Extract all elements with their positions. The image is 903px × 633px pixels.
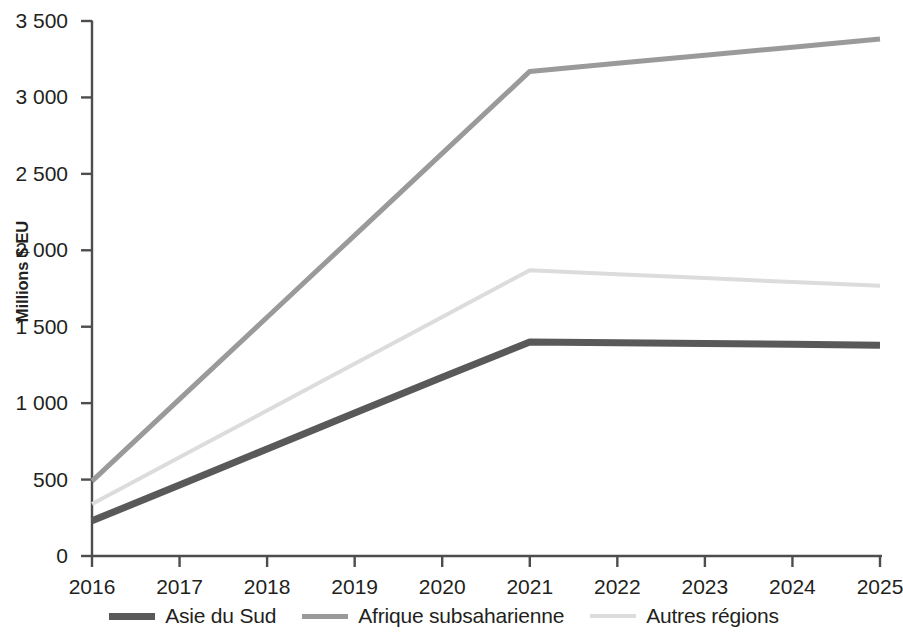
chart-legend: Asie du SudAfrique subsaharienneAutres r… <box>0 604 888 628</box>
legend-swatch-icon <box>109 613 155 620</box>
legend-swatch-icon <box>302 614 348 619</box>
legend-label: Afrique subsaharienne <box>358 604 564 628</box>
series-line-1 <box>92 39 880 481</box>
legend-item[interactable]: Afrique subsaharienne <box>302 604 564 628</box>
legend-item[interactable]: Asie du Sud <box>109 604 276 628</box>
legend-swatch-icon <box>590 614 636 618</box>
legend-item[interactable]: Autres régions <box>590 604 779 628</box>
legend-label: Autres régions <box>646 604 779 628</box>
legend-label: Asie du Sud <box>165 604 276 628</box>
